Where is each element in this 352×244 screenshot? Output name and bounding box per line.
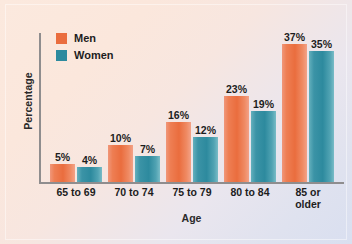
bar-fill	[193, 137, 218, 182]
bar-fill	[166, 122, 191, 182]
bar-fill	[50, 164, 75, 183]
bar-group-bars: 10% 7%	[105, 32, 163, 182]
bar-group-bars: 23% 19%	[221, 32, 279, 182]
bar-men[interactable]: 37%	[282, 44, 307, 183]
bar-men[interactable]: 5%	[50, 164, 75, 183]
bar-fill	[135, 156, 160, 182]
bar-value-men: 37%	[284, 31, 305, 43]
x-tick-label: 75 to 79	[172, 186, 211, 198]
x-tick-label-line1: 75 to 79	[172, 186, 211, 198]
bar-women[interactable]: 12%	[193, 137, 218, 182]
bar-group-bars: 5% 4%	[47, 32, 105, 182]
bar-value-men: 16%	[168, 109, 189, 121]
y-axis-line	[39, 33, 41, 183]
x-tick-label-line2: older	[295, 198, 321, 210]
bar-men[interactable]: 23%	[224, 96, 249, 182]
bar-group: 10% 7% 70 to 74	[105, 32, 163, 182]
bar-value-men: 5%	[55, 151, 70, 163]
bar-fill	[77, 167, 102, 182]
bar-group: 23% 19% 80 to 84	[221, 32, 279, 182]
bar-group-bars: 37% 35%	[279, 32, 337, 182]
x-tick-label: 70 to 74	[114, 186, 153, 198]
bar-men[interactable]: 10%	[108, 145, 133, 183]
bar-value-women: 4%	[82, 154, 97, 166]
bar-value-women: 19%	[253, 98, 274, 110]
x-tick-label: 65 to 69	[56, 186, 95, 198]
bar-group: 37% 35% 85 or older	[279, 32, 337, 182]
x-tick-label: 85 or older	[295, 186, 321, 210]
bar-value-women: 12%	[195, 124, 216, 136]
bar-women[interactable]: 35%	[309, 51, 334, 182]
bar-value-women: 7%	[140, 143, 155, 155]
bar-men[interactable]: 16%	[166, 122, 191, 182]
bar-women[interactable]: 7%	[135, 156, 160, 182]
bar-fill	[224, 96, 249, 182]
bar-group: 16% 12% 75 to 79	[163, 32, 221, 182]
bar-group-bars: 16% 12%	[163, 32, 221, 182]
x-tick-label-line1: 85 or	[295, 186, 320, 198]
y-axis-title: Percentage	[22, 56, 34, 146]
x-tick-label-line1: 70 to 74	[114, 186, 153, 198]
bar-group: 5% 4% 65 to 69	[47, 32, 105, 182]
bar-fill	[108, 145, 133, 183]
bar-fill	[309, 51, 334, 182]
x-axis-line	[39, 182, 344, 184]
bar-value-men: 10%	[110, 132, 131, 144]
plot-area: Percentage Age Men Women 5% 4%	[0, 0, 352, 244]
bar-fill	[251, 111, 276, 182]
bar-value-men: 23%	[226, 83, 247, 95]
bar-chart-figure: Percentage Age Men Women 5% 4%	[0, 0, 352, 244]
bar-fill	[282, 44, 307, 183]
x-tick-label-line1: 65 to 69	[56, 186, 95, 198]
bar-women[interactable]: 19%	[251, 111, 276, 182]
bar-women[interactable]: 4%	[77, 167, 102, 182]
bar-value-women: 35%	[311, 38, 332, 50]
x-axis-title: Age	[39, 212, 344, 224]
x-tick-label-line1: 80 to 84	[230, 186, 269, 198]
x-tick-label: 80 to 84	[230, 186, 269, 198]
